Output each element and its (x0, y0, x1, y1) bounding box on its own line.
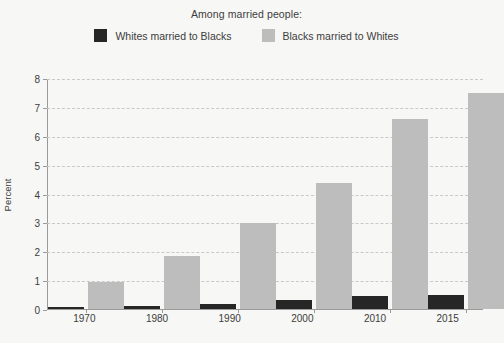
y-tick-mark (43, 223, 47, 224)
y-tick-mark (43, 79, 47, 80)
y-tick-label: 0 (34, 305, 40, 316)
legend-label-blacks-married-to-whites: Blacks married to Whites (283, 30, 399, 42)
y-tick-label: 7 (34, 102, 40, 113)
y-tick-label: 3 (34, 218, 40, 229)
x-tick-label: 2015 (411, 313, 484, 324)
bar[interactable] (468, 93, 504, 309)
bar-groups (48, 79, 483, 309)
y-tick-label: 1 (34, 276, 40, 287)
y-tick-label: 4 (34, 189, 40, 200)
x-tick-label: 1970 (48, 313, 121, 324)
bar[interactable] (164, 256, 200, 309)
y-tick-mark (43, 281, 47, 282)
bar[interactable] (352, 296, 388, 309)
y-axis-title: Percent (2, 178, 13, 211)
legend-title: Among married people: (191, 8, 302, 20)
bar[interactable] (200, 304, 236, 309)
bar[interactable] (316, 183, 352, 310)
bar-group (352, 79, 428, 309)
bar[interactable] (48, 307, 84, 309)
y-tick-label: 5 (34, 160, 40, 171)
y-tick-mark (43, 195, 47, 196)
legend-item-blacks-married-to-whites[interactable]: Blacks married to Whites (262, 29, 399, 42)
bar[interactable] (88, 282, 124, 309)
bar[interactable] (124, 306, 160, 309)
y-tick-mark (43, 108, 47, 109)
bar-group (276, 79, 352, 309)
bar-group (124, 79, 200, 309)
legend-item-whites-married-to-blacks[interactable]: Whites married to Blacks (94, 29, 231, 42)
legend-entries: Whites married to Blacks Blacks married … (94, 29, 398, 42)
bar[interactable] (240, 223, 276, 309)
x-tick-label: 2010 (339, 313, 412, 324)
bar-group (200, 79, 276, 309)
legend-swatch-gray-icon (262, 29, 275, 42)
legend-label-whites-married-to-blacks: Whites married to Blacks (115, 30, 231, 42)
bar-group (48, 79, 124, 309)
plot-area: Percent 012345678 (47, 79, 483, 310)
x-tick-label: 1980 (121, 313, 194, 324)
legend-swatch-black-icon (94, 29, 107, 42)
y-tick-mark (43, 252, 47, 253)
y-tick-mark (43, 166, 47, 167)
x-tick-label: 2000 (266, 313, 339, 324)
bar[interactable] (428, 295, 464, 309)
bar[interactable] (392, 119, 428, 309)
y-tick-label: 8 (34, 74, 40, 85)
y-tick-label: 2 (34, 247, 40, 258)
y-tick-mark (43, 137, 47, 138)
x-axis-line (47, 309, 483, 310)
x-axis-labels: 197019801990200020102015 (48, 313, 484, 324)
y-tick-label: 6 (34, 131, 40, 142)
chart-legend: Among married people: Whites married to … (0, 8, 493, 42)
y-tick-mark (43, 310, 47, 311)
bar-group (428, 79, 504, 309)
x-tick-label: 1990 (193, 313, 266, 324)
bar[interactable] (276, 300, 312, 309)
